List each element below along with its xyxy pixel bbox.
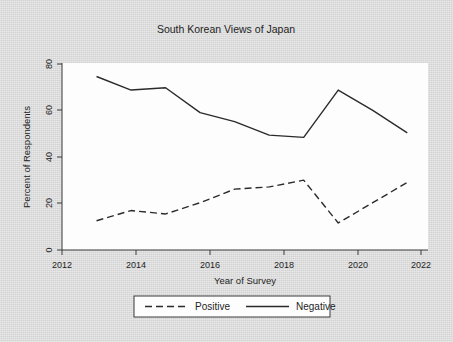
chart-legend: Positive Negative: [134, 296, 336, 317]
x-tick-label: 2022: [411, 260, 431, 270]
x-tick-label: 2012: [52, 260, 72, 270]
x-axis-title: Year of Survey: [214, 275, 276, 286]
x-axis-tick-labels: 2012 2014 2016 2018 2020 2022: [52, 260, 431, 270]
y-tick-label: 0: [44, 247, 54, 252]
y-tick-label: 40: [44, 152, 54, 162]
x-tick-label: 2020: [348, 260, 368, 270]
legend-label-positive: Positive: [195, 301, 230, 312]
y-tick-label: 80: [44, 59, 54, 69]
line-chart: South Korean Views of Japan 80 60 40 20 …: [0, 0, 453, 342]
y-tick-label: 60: [44, 105, 54, 115]
x-axis-ticks: [62, 250, 421, 255]
x-tick-label: 2018: [274, 260, 294, 270]
y-axis-tick-labels: 80 60 40 20 0: [44, 59, 54, 253]
plot-area-background: [62, 63, 428, 250]
x-tick-label: 2014: [126, 260, 146, 270]
chart-figure: South Korean Views of Japan 80 60 40 20 …: [0, 0, 453, 342]
x-tick-label: 2016: [200, 260, 220, 270]
y-tick-label: 20: [44, 198, 54, 208]
chart-title: South Korean Views of Japan: [157, 23, 295, 35]
legend-label-negative: Negative: [296, 301, 336, 312]
y-axis-title: Percent of Respondents: [21, 106, 32, 208]
y-axis-ticks: [57, 64, 62, 250]
